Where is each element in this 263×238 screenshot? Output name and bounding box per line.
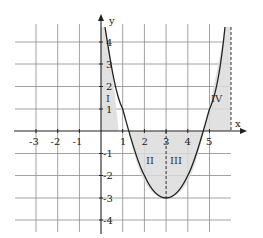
region-label-I: I [106,93,110,104]
x-tick-labels: -3 -2 -1 1 2 3 4 5 [29,136,212,147]
svg-text:4: 4 [185,136,191,147]
y-axis-label: y [108,15,115,26]
y-axis-arrow-icon [98,14,104,21]
svg-text:-3: -3 [29,136,39,147]
svg-text:-2: -2 [51,136,61,147]
svg-text:-2: -2 [103,170,113,181]
x-axis-arrow-icon [240,128,247,134]
svg-text:4: 4 [106,37,112,48]
function-graph: y x -3 -2 -1 1 2 3 4 5 4 3 2 1 -1 -2 -3 … [0,0,263,238]
svg-text:-3: -3 [103,193,113,204]
region-label-II: II [146,155,154,166]
svg-text:1: 1 [106,104,112,115]
svg-text:5: 5 [206,136,212,147]
svg-text:2: 2 [106,81,112,92]
svg-text:-1: -1 [103,148,113,159]
svg-text:-4: -4 [103,215,113,226]
region-label-III: III [170,155,182,166]
region-label-IV: IV [211,93,223,104]
svg-text:2: 2 [142,136,148,147]
svg-text:3: 3 [106,59,112,70]
svg-text:1: 1 [120,136,126,147]
svg-text:3: 3 [163,136,169,147]
svg-text:-1: -1 [73,136,83,147]
x-axis-label: x [235,118,241,129]
grid [15,24,231,232]
